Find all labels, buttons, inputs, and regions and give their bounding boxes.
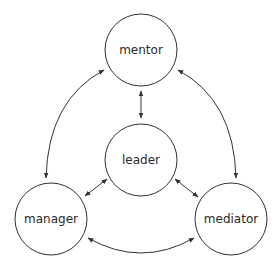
node-label-manager: manager — [24, 212, 78, 226]
edge-leader-manager — [85, 179, 107, 196]
edge-mentor-manager — [46, 70, 104, 178]
node-label-mentor: mentor — [119, 43, 163, 57]
edge-manager-mediator — [88, 238, 194, 253]
edge-leader-mediator — [175, 179, 198, 197]
diagram-svg: mentor leader manager mediator — [0, 0, 279, 272]
node-manager: manager — [15, 183, 87, 255]
node-leader: leader — [105, 124, 177, 196]
node-label-mediator: mediator — [204, 212, 258, 226]
edge-mentor-mediator — [178, 70, 236, 178]
node-label-leader: leader — [122, 153, 160, 167]
diagram-canvas: mentor leader manager mediator — [0, 0, 279, 272]
node-mentor: mentor — [105, 14, 177, 86]
node-mediator: mediator — [195, 183, 267, 255]
